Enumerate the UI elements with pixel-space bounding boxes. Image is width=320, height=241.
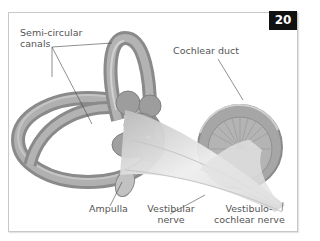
label-line-1: Vestibular [146, 203, 196, 214]
label-line-2: canals [20, 38, 82, 49]
label-line-1: Semi-circular [20, 27, 82, 38]
label-ampulla: Ampulla [89, 203, 128, 214]
figure-number-badge: 20 [269, 11, 297, 30]
label-line-1: Vestibulo- [214, 203, 284, 214]
label-vestibulocochlear-nerve: Vestibulo- cochlear nerve [214, 203, 284, 225]
label-line-2: cochlear nerve [214, 214, 284, 225]
label-line-2: nerve [146, 214, 196, 225]
label-cochlear-duct: Cochlear duct [173, 45, 239, 56]
label-vestibular-nerve: Vestibular nerve [146, 203, 196, 225]
label-semicircular-canals: Semi-circular canals [20, 27, 82, 49]
